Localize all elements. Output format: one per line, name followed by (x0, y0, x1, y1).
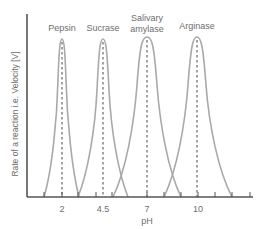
y-axis-label: Rate of a reaction i.e. Velocity [V] (10, 51, 20, 176)
label-salivary-amylase-line1: Salivary (131, 13, 164, 23)
tick-label-10: 10 (193, 204, 203, 214)
x-axis-label: pH (141, 216, 153, 226)
tick-label-4-5: 4.5 (97, 204, 110, 214)
tick-label-2: 2 (59, 204, 64, 214)
tick-label-7: 7 (144, 204, 149, 214)
enzyme-ph-chart: 2 4.5 7 10 pH Rate of a reaction i.e. Ve… (0, 0, 269, 229)
optimum-lines (62, 40, 197, 197)
label-sucrase: Sucrase (86, 23, 119, 33)
label-salivary-amylase-line2: amylase (130, 24, 164, 34)
curve-arginase (164, 37, 232, 197)
curves (44, 37, 232, 197)
label-arginase: Arginase (179, 21, 215, 31)
label-pepsin: Pepsin (48, 23, 76, 33)
